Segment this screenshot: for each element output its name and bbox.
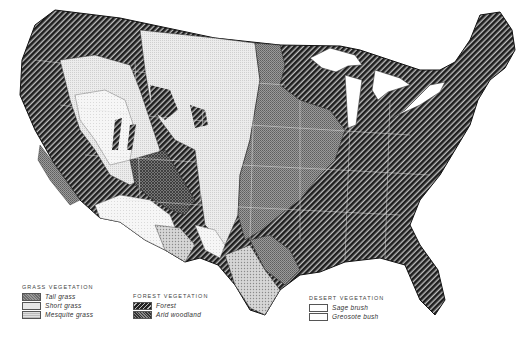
forest-swatch — [133, 302, 152, 310]
tall-grass-swatch — [22, 293, 41, 301]
sage-brush-swatch — [309, 304, 328, 312]
legend-grass-heading: GRASS VEGETATION — [22, 284, 93, 290]
legend-label: Tall grass — [45, 293, 76, 300]
legend-grass: GRASS VEGETATION Tall grass Short grass … — [22, 284, 93, 319]
creosote-bush-swatch — [309, 313, 328, 321]
legend-forest: FOREST VEGETATION Forest Arid woodland — [133, 293, 208, 319]
legend-label: Short grass — [45, 302, 82, 309]
legend-item-creosote-bush: Greosote bush — [309, 312, 384, 321]
legend-forest-heading: FOREST VEGETATION — [133, 293, 208, 299]
legend-item-tall-grass: Tall grass — [22, 292, 93, 301]
legend-label: Mesquite grass — [45, 311, 93, 318]
legend-item-sage-brush: Sage brush — [309, 303, 384, 312]
legend-item-mesquite-grass: Mesquite grass — [22, 310, 93, 319]
legend-desert-heading: DESERT VEGETATION — [309, 295, 384, 301]
arid-woodland-swatch — [133, 311, 152, 319]
legend-label: Arid woodland — [156, 311, 201, 318]
mesquite-grass-swatch — [22, 311, 41, 319]
legend-item-short-grass: Short grass — [22, 301, 93, 310]
legend-item-forest: Forest — [133, 301, 208, 310]
legend-label: Greosote bush — [332, 313, 379, 320]
legend-label: Forest — [156, 302, 176, 309]
legend-desert: DESERT VEGETATION Sage brush Greosote bu… — [309, 295, 384, 321]
short-grass-swatch — [22, 302, 41, 310]
legend-item-arid-woodland: Arid woodland — [133, 310, 208, 319]
legend-label: Sage brush — [332, 304, 368, 311]
